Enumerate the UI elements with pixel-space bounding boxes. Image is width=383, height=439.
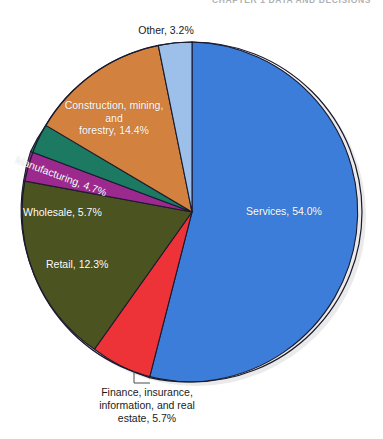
slice-label-other: Other, 3.2%: [96, 24, 236, 37]
pie-chart: Other, 3.2% Construction, mining, and fo…: [0, 0, 383, 439]
slice-label-finance: Finance, insurance, information, and rea…: [40, 386, 254, 425]
page-canvas: CHAPTER 1 DATA AND DECISIONS: [0, 0, 383, 439]
pie-chart-svg: [0, 0, 383, 439]
